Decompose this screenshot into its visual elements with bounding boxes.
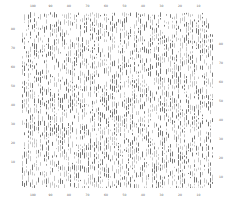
left-tick-label: 10: [11, 161, 15, 164]
top-tick-label: 70: [86, 5, 90, 8]
left-tick-label: 60: [11, 66, 15, 69]
top-tick-label: 20: [178, 5, 182, 8]
right-tick-label: 10: [219, 176, 223, 179]
top-tick-label: 40: [141, 5, 145, 8]
right-tick-label: 30: [219, 138, 223, 141]
top-tick-label: 100: [30, 5, 36, 8]
left-tick-label: 40: [11, 104, 15, 107]
left-tick-label: 50: [11, 85, 15, 88]
left-tick-label: 70: [11, 47, 15, 50]
left-tick-label: 80: [11, 28, 15, 31]
left-tick-label: 30: [11, 123, 15, 126]
right-tick-label: 80: [219, 43, 223, 46]
bottom-tick-label: 10: [197, 194, 201, 197]
bottom-tick-label: 50: [123, 194, 127, 197]
top-tick-label: 30: [160, 5, 164, 8]
top-tick-label: 80: [67, 5, 71, 8]
plot-area: [22, 12, 214, 188]
right-tick-label: 20: [219, 157, 223, 160]
top-tick-label: 50: [123, 5, 127, 8]
right-tick-label: 70: [219, 62, 223, 65]
top-tick-label: 90: [49, 5, 53, 8]
top-tick-label: 10: [197, 5, 201, 8]
bottom-tick-label: 90: [49, 194, 53, 197]
top-tick-label: 60: [104, 5, 108, 8]
bottom-tick-label: 70: [86, 194, 90, 197]
left-tick-label: 20: [11, 142, 15, 145]
right-tick-label: 50: [219, 100, 223, 103]
bottom-tick-label: 60: [104, 194, 108, 197]
dense-raster-chart: 100908070605040302010 100908070605040302…: [0, 0, 235, 204]
right-tick-label: 60: [219, 81, 223, 84]
bottom-tick-label: 40: [141, 194, 145, 197]
bottom-tick-label: 20: [178, 194, 182, 197]
bottom-tick-label: 80: [67, 194, 71, 197]
right-tick-label: 40: [219, 119, 223, 122]
bottom-tick-label: 30: [160, 194, 164, 197]
bottom-tick-label: 100: [30, 194, 36, 197]
